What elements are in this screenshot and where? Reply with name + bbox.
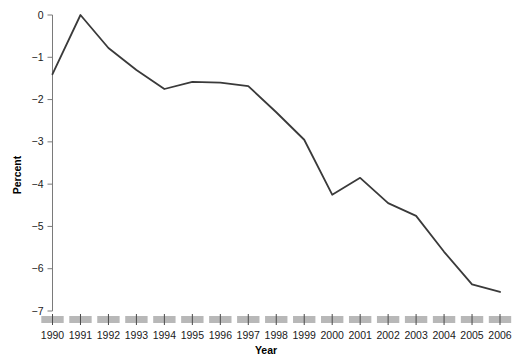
x-tick-label: 2000: [321, 329, 345, 341]
x-tick-label: 1998: [265, 329, 289, 341]
x-axis: 1990199119921993199419951996199719981999…: [41, 314, 512, 341]
y-tick-label: 0: [38, 9, 44, 21]
y-tick-group: 0−1−2−3−4−5−6−7: [32, 9, 53, 317]
y-tick-label: −7: [32, 305, 44, 317]
x-tick-label: 2004: [432, 329, 456, 341]
x-tick-label: 1997: [237, 329, 261, 341]
x-axis-title: Year: [255, 344, 277, 356]
chart-container: 0−1−2−3−4−5−6−7 199019911992199319941995…: [0, 0, 515, 361]
x-tick-label: 2002: [376, 329, 400, 341]
y-tick-label: −2: [32, 93, 44, 105]
x-tick-label: 2003: [404, 329, 428, 341]
x-tick-label: 1996: [209, 329, 233, 341]
y-axis: 0−1−2−3−4−5−6−7: [32, 9, 53, 317]
data-line-percent: [53, 15, 501, 292]
x-tick-label: 1994: [153, 329, 177, 341]
x-tick-label: 1999: [293, 329, 317, 341]
x-tick-label: 2006: [488, 329, 512, 341]
x-tick-label: 1992: [97, 329, 121, 341]
x-tick-label: 2001: [348, 329, 372, 341]
x-tick-label: 2005: [460, 329, 484, 341]
y-tick-label: −4: [32, 178, 44, 190]
x-tick-label: 1991: [69, 329, 93, 341]
y-tick-label: −6: [32, 262, 44, 274]
x-tick-label: 1993: [125, 329, 149, 341]
line-chart: 0−1−2−3−4−5−6−7 199019911992199319941995…: [0, 0, 515, 361]
y-tick-label: −1: [32, 51, 44, 63]
y-axis-title: Percent: [11, 155, 23, 194]
y-tick-label: −5: [32, 220, 44, 232]
data-series-group: [53, 15, 501, 292]
x-tick-label: 1995: [181, 329, 205, 341]
x-tick-label: 1990: [41, 329, 65, 341]
y-tick-label: −3: [32, 135, 44, 147]
